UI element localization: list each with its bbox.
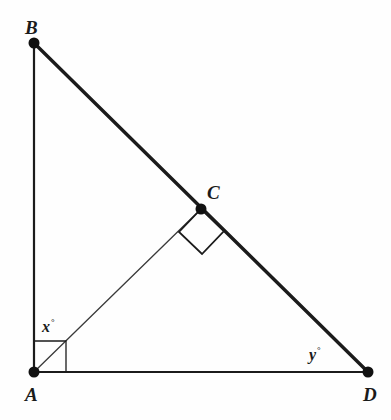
vertex-dot-a — [29, 367, 40, 378]
vertex-dot-d — [363, 367, 374, 378]
figure-canvas — [0, 0, 391, 420]
angle-variable-x: x — [42, 318, 50, 335]
angle-label-x: x° — [42, 319, 54, 335]
vertex-label-b: B — [25, 18, 38, 37]
geometry-figure: B A C D x° y° — [0, 0, 391, 420]
degree-symbol-x: ° — [51, 317, 55, 327]
angle-label-y: y° — [309, 347, 320, 363]
segment-ac — [34, 209, 201, 372]
right-angle-mark-c — [179, 209, 224, 254]
angle-variable-y: y — [309, 346, 316, 363]
vertex-dot-b — [29, 38, 40, 49]
vertex-label-a: A — [25, 385, 38, 404]
vertex-dot-c — [196, 204, 207, 215]
vertex-label-d: D — [363, 385, 377, 404]
degree-symbol-y: ° — [317, 345, 321, 355]
vertex-label-c: C — [207, 183, 220, 202]
